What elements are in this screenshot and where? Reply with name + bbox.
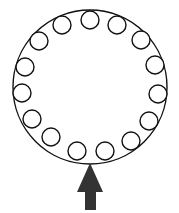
ring-diagram — [0, 0, 179, 213]
small-circle — [81, 11, 99, 29]
small-circle — [42, 128, 60, 146]
small-circle — [146, 56, 164, 74]
small-circle — [149, 85, 167, 103]
small-circle — [16, 58, 34, 76]
small-circle — [30, 32, 48, 50]
small-circle — [68, 142, 86, 160]
small-circle — [122, 132, 140, 150]
small-circle — [23, 110, 41, 128]
small-circle — [140, 112, 158, 130]
small-circles-group — [13, 11, 167, 160]
small-circle — [108, 16, 126, 34]
small-circle — [132, 31, 150, 49]
small-circle — [13, 84, 31, 102]
small-circle — [53, 16, 71, 34]
small-circle — [96, 142, 114, 160]
up-arrow-icon — [77, 163, 103, 210]
